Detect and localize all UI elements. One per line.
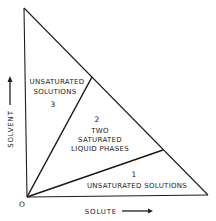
solvent-arrow-icon xyxy=(8,76,13,105)
region-2-label-line-1: TWO xyxy=(90,127,109,135)
origin-label: O xyxy=(19,200,25,209)
region-2-label-line-3: LIQUID PHASES xyxy=(71,145,129,153)
region-1-number: 1 xyxy=(132,170,137,179)
region-3-label-line-2: SOLUTIONS xyxy=(34,88,77,96)
solute-axis-label: SOLUTE xyxy=(85,208,117,216)
region-2-number: 2 xyxy=(95,115,100,124)
solute-axis-edge xyxy=(27,195,208,197)
solvent-axis-edge xyxy=(24,8,27,197)
region-1-label: UNSATURATED SOLUTIONS xyxy=(87,182,187,190)
solute-arrow-icon xyxy=(122,209,153,214)
region-3-number: 3 xyxy=(51,100,56,109)
region-2-label-line-2: SATURATED xyxy=(78,136,122,144)
phase-diagram: UNSATURATED SOLUTIONS 3 2 TWO SATURATED … xyxy=(0,0,216,221)
region-3-label-line-1: UNSATURATED xyxy=(30,78,85,86)
solvent-axis-label: SOLVENT xyxy=(7,110,15,147)
